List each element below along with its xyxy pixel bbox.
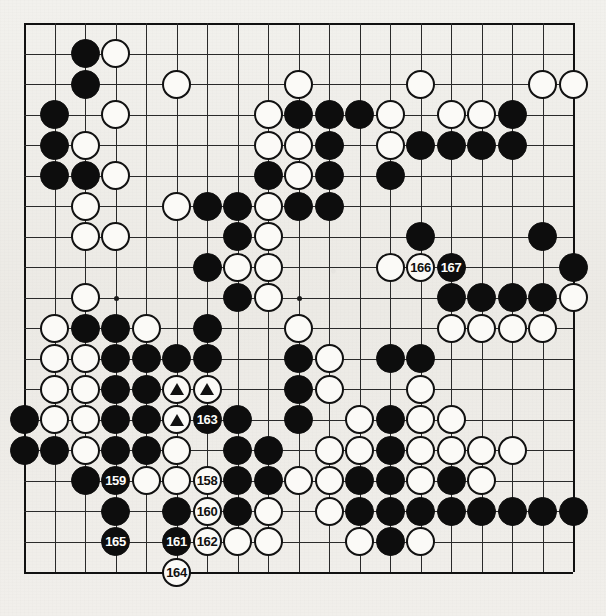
black-stone[interactable] xyxy=(345,100,374,129)
white-stone[interactable] xyxy=(284,466,313,495)
black-stone[interactable] xyxy=(223,436,252,465)
black-stone[interactable] xyxy=(223,283,252,312)
black-stone[interactable] xyxy=(284,192,313,221)
white-stone[interactable] xyxy=(376,100,405,129)
white-stone[interactable] xyxy=(437,405,466,434)
white-stone[interactable] xyxy=(71,344,100,373)
black-stone[interactable] xyxy=(132,375,161,404)
white-stone[interactable] xyxy=(345,436,374,465)
black-stone[interactable] xyxy=(284,375,313,404)
white-stone[interactable] xyxy=(101,222,130,251)
black-stone[interactable] xyxy=(376,466,405,495)
white-stone[interactable] xyxy=(71,436,100,465)
black-stone[interactable] xyxy=(162,497,191,526)
white-stone[interactable] xyxy=(284,70,313,99)
white-stone[interactable] xyxy=(254,131,283,160)
black-stone[interactable] xyxy=(284,100,313,129)
white-stone[interactable] xyxy=(467,314,496,343)
white-stone[interactable] xyxy=(437,314,466,343)
white-stone[interactable] xyxy=(101,100,130,129)
white-stone[interactable] xyxy=(254,283,283,312)
black-stone[interactable] xyxy=(71,314,100,343)
black-stone[interactable] xyxy=(437,283,466,312)
black-stone[interactable] xyxy=(101,405,130,434)
black-stone[interactable] xyxy=(559,253,588,282)
black-stone[interactable] xyxy=(437,131,466,160)
white-stone[interactable] xyxy=(406,405,435,434)
black-stone[interactable] xyxy=(315,161,344,190)
white-stone[interactable] xyxy=(71,192,100,221)
black-stone[interactable] xyxy=(559,497,588,526)
white-stone[interactable] xyxy=(467,466,496,495)
black-stone[interactable] xyxy=(40,100,69,129)
black-stone[interactable] xyxy=(284,405,313,434)
white-stone[interactable] xyxy=(101,161,130,190)
white-stone[interactable] xyxy=(559,283,588,312)
black-stone-numbered[interactable]: 163 xyxy=(193,405,222,434)
black-stone[interactable] xyxy=(315,100,344,129)
black-stone[interactable] xyxy=(437,497,466,526)
white-stone[interactable] xyxy=(376,131,405,160)
black-stone[interactable] xyxy=(376,436,405,465)
white-stone[interactable] xyxy=(345,527,374,556)
black-stone[interactable] xyxy=(193,253,222,282)
white-stone[interactable] xyxy=(71,222,100,251)
white-stone[interactable] xyxy=(254,100,283,129)
white-stone-numbered[interactable]: 162 xyxy=(193,527,222,556)
white-stone[interactable] xyxy=(406,527,435,556)
white-stone[interactable] xyxy=(162,436,191,465)
white-stone[interactable] xyxy=(71,283,100,312)
white-stone[interactable] xyxy=(132,466,161,495)
black-stone[interactable] xyxy=(101,436,130,465)
black-stone[interactable] xyxy=(101,497,130,526)
go-board[interactable]: 166167163159158160165161162164 xyxy=(0,0,606,616)
white-stone[interactable] xyxy=(162,70,191,99)
white-stone[interactable] xyxy=(315,497,344,526)
black-stone[interactable] xyxy=(345,466,374,495)
black-stone[interactable] xyxy=(101,344,130,373)
black-stone-numbered[interactable]: 165 xyxy=(101,527,130,556)
white-stone[interactable] xyxy=(223,527,252,556)
black-stone[interactable] xyxy=(71,70,100,99)
black-stone[interactable] xyxy=(71,466,100,495)
white-stone-numbered[interactable]: 166 xyxy=(406,253,435,282)
black-stone[interactable] xyxy=(284,344,313,373)
black-stone[interactable] xyxy=(223,192,252,221)
white-stone-marked[interactable] xyxy=(162,375,191,404)
white-stone-numbered[interactable]: 164 xyxy=(162,558,191,587)
white-stone[interactable] xyxy=(498,314,527,343)
black-stone[interactable] xyxy=(406,222,435,251)
black-stone[interactable] xyxy=(132,405,161,434)
black-stone[interactable] xyxy=(498,283,527,312)
black-stone[interactable] xyxy=(254,161,283,190)
white-stone[interactable] xyxy=(40,344,69,373)
black-stone[interactable] xyxy=(345,497,374,526)
black-stone[interactable] xyxy=(315,192,344,221)
black-stone[interactable] xyxy=(376,497,405,526)
white-stone[interactable] xyxy=(315,436,344,465)
black-stone[interactable] xyxy=(223,497,252,526)
black-stone[interactable] xyxy=(132,344,161,373)
white-stone[interactable] xyxy=(376,253,405,282)
white-stone[interactable] xyxy=(162,466,191,495)
black-stone[interactable] xyxy=(467,131,496,160)
black-stone[interactable] xyxy=(437,466,466,495)
black-stone[interactable] xyxy=(376,527,405,556)
white-stone[interactable] xyxy=(162,192,191,221)
black-stone[interactable] xyxy=(467,497,496,526)
white-stone[interactable] xyxy=(498,436,527,465)
white-stone[interactable] xyxy=(223,253,252,282)
black-stone[interactable] xyxy=(223,222,252,251)
black-stone[interactable] xyxy=(10,436,39,465)
black-stone[interactable] xyxy=(101,314,130,343)
black-stone[interactable] xyxy=(40,161,69,190)
black-stone[interactable] xyxy=(193,314,222,343)
black-stone[interactable] xyxy=(10,405,39,434)
white-stone[interactable] xyxy=(254,253,283,282)
white-stone[interactable] xyxy=(254,222,283,251)
black-stone[interactable] xyxy=(254,436,283,465)
black-stone[interactable] xyxy=(71,39,100,68)
black-stone[interactable] xyxy=(254,466,283,495)
white-stone[interactable] xyxy=(406,375,435,404)
black-stone[interactable] xyxy=(40,436,69,465)
